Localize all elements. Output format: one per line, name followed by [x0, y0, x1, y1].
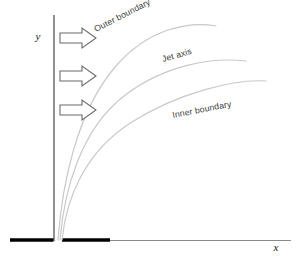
inflow-arrow-1 [60, 28, 96, 48]
inner-boundary-curve [62, 81, 266, 240]
x-axis-label: x [273, 241, 279, 253]
jet-axis-label: Jet axis [161, 46, 193, 64]
jet-flow-diagram: y x Outer boundary Jet axis Inner bounda… [0, 0, 299, 257]
arrows-group [60, 28, 96, 120]
outer-boundary-label: Outer boundary [92, 0, 152, 34]
inner-boundary-label: Inner boundary [171, 99, 232, 120]
inflow-arrow-2 [60, 66, 96, 86]
y-axis-label: y [35, 30, 41, 42]
inflow-arrow-3 [60, 100, 96, 120]
axes-group [54, 15, 291, 241]
diagram-canvas: y x Outer boundary Jet axis Inner bounda… [0, 0, 299, 257]
jet-axis-curve [60, 60, 246, 240]
outer-boundary-curve [58, 25, 216, 240]
